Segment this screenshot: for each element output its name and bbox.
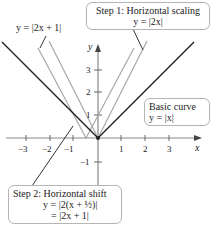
x-tick--1: −1	[64, 145, 74, 154]
step2-box: Step 2: Horizontal shift y = |2(x + ½)| …	[8, 185, 122, 224]
x-axis-arrow	[194, 135, 202, 141]
x-tick-3: 3	[167, 145, 172, 154]
y-tick-1: 1	[86, 111, 91, 120]
y-tick-2: 2	[86, 88, 91, 97]
pointer-top-left	[40, 36, 46, 48]
y-tick--1: −1	[80, 158, 90, 167]
step2-title: Step 2: Horizontal shift	[13, 188, 117, 199]
basic-title: Basic curve	[149, 101, 205, 112]
step2-eq2: = |2x + 1|	[13, 210, 117, 221]
pointer-step1	[132, 27, 143, 50]
origin-dot	[96, 136, 100, 140]
label-2x-plus-1: y = |2x + 1|	[16, 22, 61, 33]
x-tick--3: −3	[18, 145, 28, 154]
x-tick--2: −2	[42, 145, 52, 154]
basic-eq: y = |x|	[149, 112, 205, 123]
step2-eq1: y = |2(x + ½)|	[13, 199, 117, 210]
x-tick-2: 2	[143, 145, 148, 154]
y-axis-label: y	[88, 42, 92, 51]
step1-eq: y = |2x|	[91, 16, 205, 27]
step1-box: Step 1: Horizontal scaling y = |2x|	[86, 2, 210, 30]
x-axis-label: x	[195, 143, 199, 152]
basic-box: Basic curve y = |x|	[144, 98, 210, 126]
y-axis-arrow	[95, 44, 101, 52]
y-tick-3: 3	[86, 66, 91, 75]
pointer-step2	[32, 126, 73, 186]
step1-title: Step 1: Horizontal scaling	[91, 5, 205, 16]
x-tick-1: 1	[119, 145, 124, 154]
